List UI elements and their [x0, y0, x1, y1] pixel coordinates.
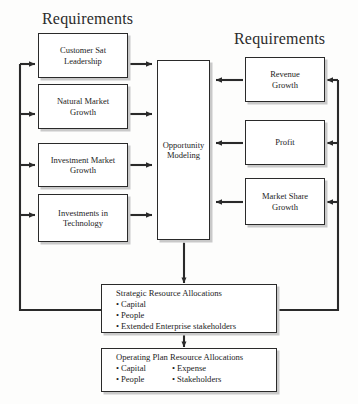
block-flow-diagram: Requirements Requirements Customer Sat L… [0, 0, 358, 404]
box-customer-sat-leadership[interactable]: Customer Sat Leadership [38, 33, 128, 78]
box-natural-market-growth[interactable]: Natural Market Growth [38, 84, 128, 129]
box-investment-market-growth[interactable]: Investment Market Growth [38, 143, 128, 187]
box-strategic-resource-allocations[interactable]: Strategic Resource Allocations Capital P… [101, 284, 277, 333]
strategic-bullet-list: Capital People Extended Enterprise stake… [116, 299, 276, 333]
box-label: Natural Market Growth [54, 96, 112, 117]
list-item: Expense [172, 363, 221, 374]
list-item: Capital [116, 299, 276, 310]
box-label: Revenue Growth [267, 69, 303, 90]
box-investments-in-technology[interactable]: Investments in Technology [38, 194, 128, 242]
list-item: Extended Enterprise stakeholders [116, 321, 276, 332]
heading-right-requirements: Requirements [234, 30, 325, 48]
operating-bullet-columns: Capital People Expense Stakeholders [116, 363, 276, 385]
list-item: Stakeholders [172, 374, 221, 385]
operating-bullet-list-col2: Expense Stakeholders [172, 363, 221, 385]
operating-bullet-list-col1: Capital People [116, 363, 172, 385]
list-item: People [116, 374, 172, 385]
box-label: Investments in Technology [55, 208, 111, 229]
box-label: Profit [272, 137, 297, 147]
list-item: Capital [116, 363, 172, 374]
strategic-title: Strategic Resource Allocations [116, 288, 276, 298]
list-item: People [116, 310, 276, 321]
box-market-share-growth[interactable]: Market Share Growth [245, 178, 325, 225]
box-opportunity-modeling[interactable]: Opportunity Modeling [157, 60, 210, 240]
heading-left-requirements: Requirements [42, 10, 133, 28]
box-operating-plan-resource-allocations[interactable]: Operating Plan Resource Allocations Capi… [101, 348, 277, 392]
box-label: Opportunity Modeling [160, 140, 208, 161]
operating-title: Operating Plan Resource Allocations [116, 352, 276, 362]
box-profit[interactable]: Profit [245, 120, 325, 165]
box-revenue-growth[interactable]: Revenue Growth [245, 57, 325, 102]
box-label: Customer Sat Leadership [57, 45, 109, 66]
box-label: Investment Market Growth [48, 155, 118, 176]
box-label: Market Share Growth [259, 191, 311, 212]
